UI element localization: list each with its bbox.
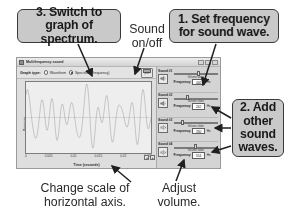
speaker-on-icon <box>160 75 167 82</box>
volume-slider[interactable]: Volume slider <box>173 70 220 79</box>
waveform-plot <box>25 81 152 154</box>
sound-title: Sound #3 <box>158 119 172 122</box>
application-window: Multifrequency sound Graph type: <box>16 57 221 169</box>
waveform-curve <box>26 82 151 153</box>
x-tick: 0.02 <box>120 154 126 158</box>
volume-slider-label: Volume slider <box>173 76 220 79</box>
caption-sound-on-off: Sound on/off <box>120 23 174 50</box>
window-body: Graph type: Waveform Spectrum (frequency… <box>17 67 220 168</box>
sound-toggle-button[interactable] <box>158 98 168 108</box>
frequency-label: Frequency <box>174 104 191 108</box>
scale-decrease-button[interactable]: ◂ <box>144 155 149 160</box>
volume-slider-label: Volume slider <box>173 100 220 103</box>
volume-slider[interactable]: Volume slider <box>173 94 220 103</box>
caption-change-scale: Change scale of horizontal axis. <box>18 182 152 209</box>
window-controls <box>198 60 218 65</box>
speaker-off-icon <box>160 124 167 131</box>
sound-row-right: Volume slider Frequency 554 Hz <box>173 143 220 166</box>
chart-area: Pressure 0 0.005 0.01 0.015 0.02 0.02 <box>17 79 156 168</box>
scale-increase-button[interactable]: ▸ <box>150 155 155 160</box>
frequency-label: Frequency <box>174 153 191 157</box>
caption-adjust-volume: Adjust volume. <box>147 182 211 209</box>
window-title: Multifrequency sound <box>26 60 63 64</box>
sound-title: Sound #1 <box>158 70 172 73</box>
frequency-unit: Hz <box>207 80 211 84</box>
frequency-unit: Hz <box>207 129 211 133</box>
speaker-off-icon <box>160 149 167 156</box>
volume-slider-label: Volume slider <box>173 125 220 128</box>
sound-toggle-button[interactable] <box>158 147 168 157</box>
callout-set-frequency: 1. Set frequency for sound wave. <box>169 9 279 43</box>
maximize-button[interactable] <box>205 60 211 65</box>
annotated-screenshot: Multifrequency sound Graph type: <box>0 0 289 219</box>
sound-row-right: Volume slider Frequency 330 Hz <box>173 119 220 142</box>
window-title-bar: Multifrequency sound <box>17 58 220 67</box>
frequency-row: Frequency 554 Hz <box>173 152 220 159</box>
callout-add-sound-waves: 2. Add other sound waves. <box>232 99 284 157</box>
speaker-on-icon <box>160 100 167 107</box>
x-tick: 0.01 <box>70 154 76 158</box>
sound-row-right: Volume slider Frequency 262 Hz <box>173 94 220 117</box>
application-icon <box>19 60 24 65</box>
callout-switch-to-spectrum: 3. Switch to graph of spectrum. <box>17 9 121 43</box>
sound-toggle-button[interactable] <box>158 74 168 84</box>
radio-spectrum[interactable]: Spectrum (frequency) <box>69 70 110 75</box>
radio-spectrum-icon <box>69 70 74 75</box>
radio-waveform-label: Waveform <box>50 71 66 75</box>
volume-slider[interactable]: Volume slider <box>173 143 220 152</box>
radio-spectrum-label: Spectrum (frequency) <box>75 71 110 75</box>
sound-toggle-button[interactable] <box>158 123 168 133</box>
sound-row: Sound #3 Volume slider <box>158 117 219 141</box>
close-button[interactable] <box>212 60 218 65</box>
sound-row: Sound #4 Volume slider <box>158 142 219 166</box>
frequency-label: Frequency <box>174 129 191 133</box>
frequency-input[interactable]: 262 <box>192 103 205 110</box>
frequency-row: Frequency 440 Hz <box>173 79 220 86</box>
sound-row-left: Sound #4 <box>158 143 171 166</box>
minimize-button[interactable] <box>198 60 204 65</box>
x-tick: 0.005 <box>45 154 53 158</box>
x-tick: 0 <box>25 154 27 158</box>
sound-row: Sound #2 Volume slider <box>158 93 219 117</box>
x-axis-label: Time (seconds) <box>17 163 156 167</box>
graph-pane: Graph type: Waveform Spectrum (frequency… <box>17 67 156 168</box>
radio-waveform-icon <box>44 70 49 75</box>
print-button-label: print <box>144 73 149 76</box>
frequency-input[interactable]: 554 <box>192 152 205 159</box>
x-tick: 0.015 <box>94 154 102 158</box>
sound-row-left: Sound #1 <box>158 70 171 93</box>
frequency-label: Frequency <box>174 80 191 84</box>
volume-slider[interactable]: Volume slider <box>173 119 220 128</box>
frequency-unit: Hz <box>207 153 211 157</box>
horizontal-scale-control[interactable]: ◂ ▸ <box>144 155 155 160</box>
x-axis-ticks: 0 0.005 0.01 0.015 0.02 0.025 <box>25 154 152 160</box>
frequency-row: Frequency 262 Hz <box>173 103 220 110</box>
sound-row-left: Sound #3 <box>158 119 171 142</box>
frequency-unit: Hz <box>207 104 211 108</box>
volume-slider-label: Volume slider <box>173 149 220 152</box>
graph-type-label: Graph type: <box>20 71 41 75</box>
frequency-input[interactable]: 330 <box>192 128 205 135</box>
sound-row-left: Sound #2 <box>158 94 171 117</box>
sound-title: Sound #2 <box>158 94 172 97</box>
graph-toolbar: Graph type: Waveform Spectrum (frequency… <box>17 67 156 79</box>
sound-row-right: Volume slider Frequency 440 Hz <box>173 70 220 93</box>
frequency-row: Frequency 330 Hz <box>173 128 220 135</box>
sound-title: Sound #4 <box>158 143 172 146</box>
sound-row: Sound #1 Volume slider <box>158 68 219 92</box>
frequency-input[interactable]: 440 <box>192 79 205 86</box>
radio-waveform[interactable]: Waveform <box>44 70 66 75</box>
print-button[interactable]: print <box>141 68 153 78</box>
sound-controls-panel: Sound #1 Volume slider <box>156 67 220 168</box>
